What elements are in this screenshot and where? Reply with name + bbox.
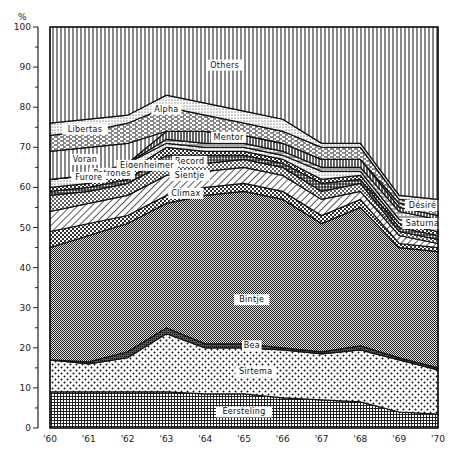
label-bea: Bea	[242, 340, 262, 351]
y-tick-label: 80	[20, 102, 32, 112]
label-furore: Furore	[71, 172, 106, 183]
x-tick-label: '70	[431, 434, 445, 444]
svg-text:Bea: Bea	[244, 341, 260, 350]
label-voran: Voran	[70, 154, 100, 165]
y-unit-label: %	[18, 12, 27, 22]
label-others: Others	[207, 60, 242, 71]
y-tick-label: 10	[20, 383, 32, 393]
svg-text:Saturna: Saturna	[406, 219, 439, 228]
x-tick-label: '68	[353, 434, 367, 444]
svg-text:Mentor: Mentor	[213, 133, 243, 142]
x-tick-label: '69	[392, 434, 406, 444]
svg-text:Furore: Furore	[75, 173, 102, 182]
y-axis: 0102030405060708090100 %	[14, 12, 38, 433]
label-libertas: Libertas	[62, 124, 108, 135]
svg-text:Bintje: Bintje	[239, 295, 264, 304]
label-sirtema: Sirtema	[235, 366, 275, 377]
svg-text:Sientje: Sientje	[175, 171, 205, 180]
label-bintje: Bintje	[234, 294, 269, 305]
x-tick-label: '65	[237, 434, 251, 444]
y-tick-label: 60	[20, 182, 32, 192]
y-tick-label: 20	[20, 343, 32, 353]
y-tick-label: 40	[20, 263, 32, 273]
x-tick-label: '66	[276, 434, 290, 444]
x-tick-label: '62	[121, 434, 135, 444]
label-eersteling: Eersteling	[216, 406, 272, 417]
y-tick-label: 0	[25, 423, 31, 433]
y-tick-label: 50	[20, 223, 32, 233]
svg-text:Sirtema: Sirtema	[239, 367, 272, 376]
y-tick-label: 70	[20, 142, 32, 152]
y-tick-label: 90	[20, 62, 32, 72]
label-saturna: Saturna	[402, 218, 442, 229]
svg-text:Record: Record	[175, 157, 204, 166]
svg-text:Climax: Climax	[171, 189, 200, 198]
svg-text:Désiré: Désiré	[409, 200, 436, 210]
label-dsir: Désiré	[405, 200, 440, 211]
label-climax: Climax	[168, 188, 203, 199]
label-mentor: Mentor	[211, 132, 246, 143]
y-tick-label: 100	[14, 22, 31, 32]
x-tick-label: '64	[198, 434, 212, 444]
y-tick-label: 30	[20, 303, 32, 313]
x-tick-label: '67	[315, 434, 329, 444]
label-sientje: Sientje	[169, 170, 209, 181]
svg-text:Eersteling: Eersteling	[222, 407, 265, 416]
svg-text:Others: Others	[210, 61, 239, 70]
svg-text:Voran: Voran	[73, 155, 98, 164]
x-tick-label: '60	[43, 434, 57, 444]
label-alpha: Alpha	[151, 104, 181, 115]
x-tick-label: '61	[82, 434, 96, 444]
x-tick-label: '63	[159, 434, 173, 444]
svg-text:Alpha: Alpha	[154, 105, 178, 114]
x-axis: '60'61'62'63'64'65'66'67'68'69'70	[43, 434, 445, 444]
svg-text:Libertas: Libertas	[68, 125, 103, 134]
stacked-area-chart: EerstelingSirtemaBeaBintjeClimaxSientjeR…	[0, 0, 449, 452]
